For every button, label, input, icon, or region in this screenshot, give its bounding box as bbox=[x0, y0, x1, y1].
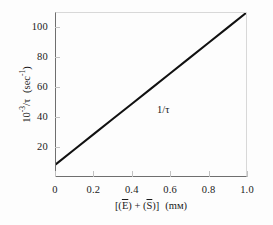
plot-frame bbox=[55, 12, 247, 177]
x-axis-tick bbox=[209, 171, 210, 177]
chart-figure: 10-3/τ(sec-1) [(E) + (S)](mм) 2040608010… bbox=[0, 0, 273, 225]
x-axis-bracket-open: [( bbox=[115, 200, 122, 211]
x-axis-tick bbox=[93, 171, 94, 177]
x-axis-tick-label: 0.6 bbox=[150, 185, 190, 196]
x-axis-tick bbox=[132, 171, 133, 177]
x-axis-tick-label: 1.0 bbox=[227, 185, 267, 196]
x-axis-unit: (mм) bbox=[165, 200, 187, 211]
y-axis-tick-label: 100 bbox=[22, 22, 48, 33]
x-axis-title: [(E) + (S)](mм) bbox=[55, 200, 247, 211]
x-axis-close-plus: ) + ( bbox=[128, 200, 146, 211]
x-axis-tick-label: 0.4 bbox=[112, 185, 152, 196]
y-axis-title-mid: /τ bbox=[21, 99, 32, 106]
y-axis-tick-label: 40 bbox=[22, 112, 48, 123]
x-axis-tick-label: 0.2 bbox=[73, 185, 113, 196]
x-axis-tick bbox=[170, 171, 171, 177]
y-axis-tick bbox=[55, 87, 60, 88]
x-axis-tick bbox=[247, 171, 248, 177]
y-axis-unit-exponent: -1 bbox=[18, 70, 27, 76]
y-axis-tick bbox=[55, 147, 60, 148]
y-axis-unit-close: ) bbox=[21, 66, 32, 70]
y-axis-tick bbox=[55, 57, 60, 58]
series-line-1-over-tau bbox=[56, 13, 246, 164]
x-axis-tick bbox=[55, 171, 56, 177]
x-axis-tick-label: 0 bbox=[35, 185, 75, 196]
x-axis-tick-label: 0.8 bbox=[189, 185, 229, 196]
series-annotation: 1/τ bbox=[157, 104, 169, 115]
y-axis-tick-label: 60 bbox=[22, 82, 48, 93]
y-axis-tick bbox=[55, 117, 60, 118]
plot-area bbox=[56, 13, 246, 176]
y-axis-tick-label: 20 bbox=[22, 142, 48, 153]
x-axis-bracket-close: )] bbox=[152, 200, 159, 211]
y-axis-tick-label: 80 bbox=[22, 52, 48, 63]
y-axis-tick bbox=[55, 27, 60, 28]
